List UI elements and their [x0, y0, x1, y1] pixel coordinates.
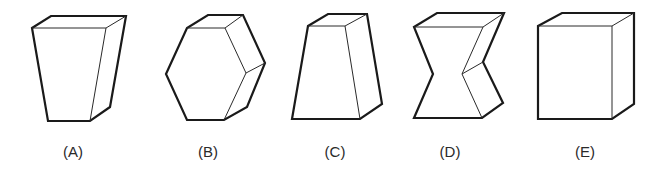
shape-c[interactable]: (C): [292, 14, 382, 160]
shape-b-outline: [166, 15, 265, 120]
shape-d-outline: [414, 13, 504, 118]
shape-e[interactable]: (E): [538, 13, 634, 160]
shape-a-outline: [32, 16, 126, 121]
shape-e-outline: [538, 13, 634, 119]
option-d-label: (D): [440, 143, 461, 160]
option-a-label: (A): [63, 143, 83, 160]
figure-canvas: (A) (B) (C) (D) (E): [0, 0, 660, 171]
shape-a[interactable]: (A): [32, 16, 126, 160]
shape-b[interactable]: (B): [166, 15, 265, 160]
option-b-label: (B): [198, 143, 218, 160]
option-c-label: (C): [325, 143, 346, 160]
option-e-label: (E): [575, 143, 595, 160]
shape-d[interactable]: (D): [414, 13, 504, 160]
shape-c-outline: [292, 14, 382, 119]
